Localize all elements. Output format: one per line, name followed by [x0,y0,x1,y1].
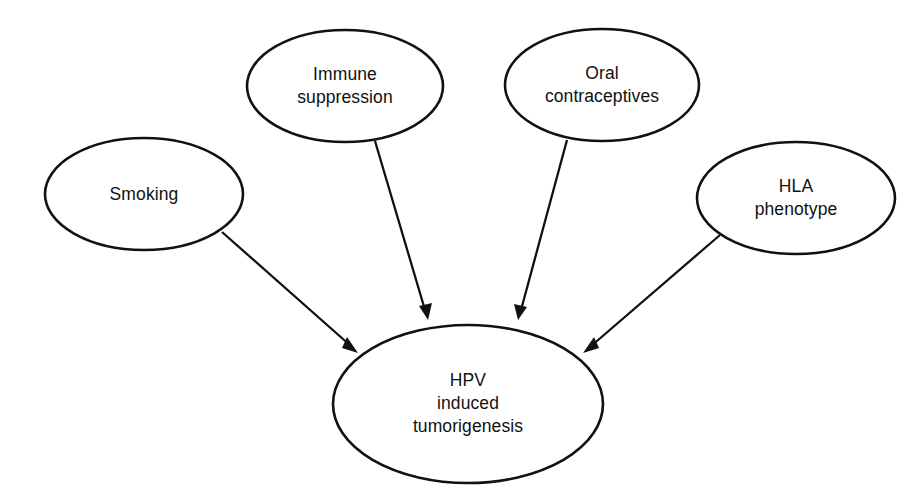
node-oral-contraceptives[interactable]: Oral contraceptives [505,29,699,141]
node-smoking[interactable]: Smoking [45,138,243,250]
node-immune-suppression-label-line1: Immune [313,64,377,84]
edge-immune-suppression-to-hpv [375,141,432,320]
edge-oral-contraceptives-line [521,140,567,310]
node-hpv-induced-tumorigenesis-label-line1: HPV [450,370,487,390]
edge-immune-suppression-arrowhead [419,303,432,320]
edge-hla-phenotype-arrowhead [583,337,599,353]
node-hpv-induced-tumorigenesis-label-line3: tumorigenesis [413,416,523,436]
edge-smoking-line [222,232,352,347]
edge-hla-phenotype-to-hpv [583,235,720,353]
edge-smoking-to-hpv [222,232,358,353]
diagram-canvas: Smoking Immune suppression Oral contrace… [0,0,919,492]
node-hpv-induced-tumorigenesis-label-line2: induced [437,393,499,413]
diagram-svg: Smoking Immune suppression Oral contrace… [0,0,919,492]
edge-oral-contraceptives-arrowhead [514,304,527,320]
node-hla-phenotype-label-line1: HLA [779,176,814,196]
node-immune-suppression-label-line2: suppression [297,87,392,107]
node-hpv-induced-tumorigenesis[interactable]: HPV induced tumorigenesis [333,325,603,483]
edge-immune-suppression-line [375,141,425,310]
edge-hla-phenotype-line [590,235,720,347]
node-smoking-label-line1: Smoking [110,184,179,204]
node-oral-contraceptives-label-line1: Oral [585,63,618,83]
node-hla-phenotype[interactable]: HLA phenotype [697,142,895,254]
node-immune-suppression[interactable]: Immune suppression [247,30,443,142]
edge-oral-contraceptives-to-hpv [514,140,567,320]
node-oral-contraceptives-label-line2: contraceptives [545,86,659,106]
node-hla-phenotype-label-line2: phenotype [755,199,838,219]
